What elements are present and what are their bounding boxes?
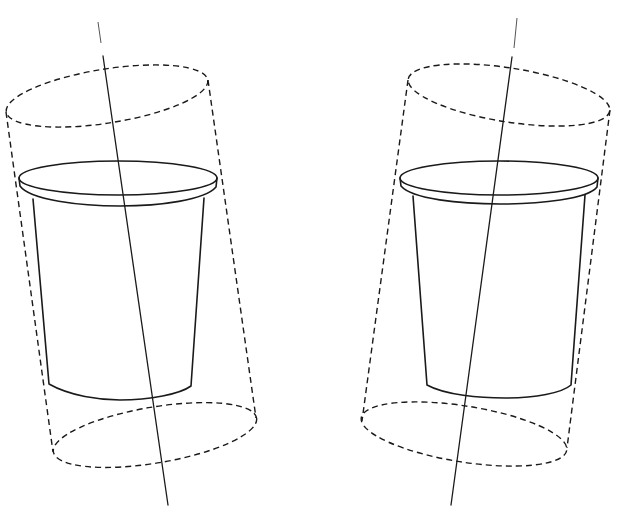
right-cup-body (413, 195, 585, 398)
left-cup-rim-band (19, 178, 217, 206)
left-cylinder-bottom-ellipse (49, 390, 261, 479)
right-cylinder-top-ellipse (404, 52, 614, 137)
right-cylinder-right-edge (567, 110, 610, 448)
cup-tilt-diagram (0, 0, 617, 519)
left-cylinder-left-edge (6, 112, 53, 452)
left-axis-faint-tip (98, 22, 101, 43)
left-cylinder-top-ellipse (2, 53, 212, 138)
right-cylinder-left-edge (362, 80, 408, 421)
left-cup-body (33, 198, 204, 400)
right-cup-rim-top (400, 161, 598, 195)
right-tilted-axis (451, 57, 512, 505)
left-tilted-axis (103, 56, 168, 505)
right-cylinder-bottom-ellipse (357, 390, 571, 478)
left-cup-figure (2, 22, 261, 505)
left-cylinder-right-edge (208, 80, 256, 418)
left-cup-rim-top (19, 161, 217, 195)
right-cup-figure (357, 18, 614, 505)
right-cup-rim-band (400, 178, 598, 204)
right-axis-faint-tip (514, 18, 517, 48)
